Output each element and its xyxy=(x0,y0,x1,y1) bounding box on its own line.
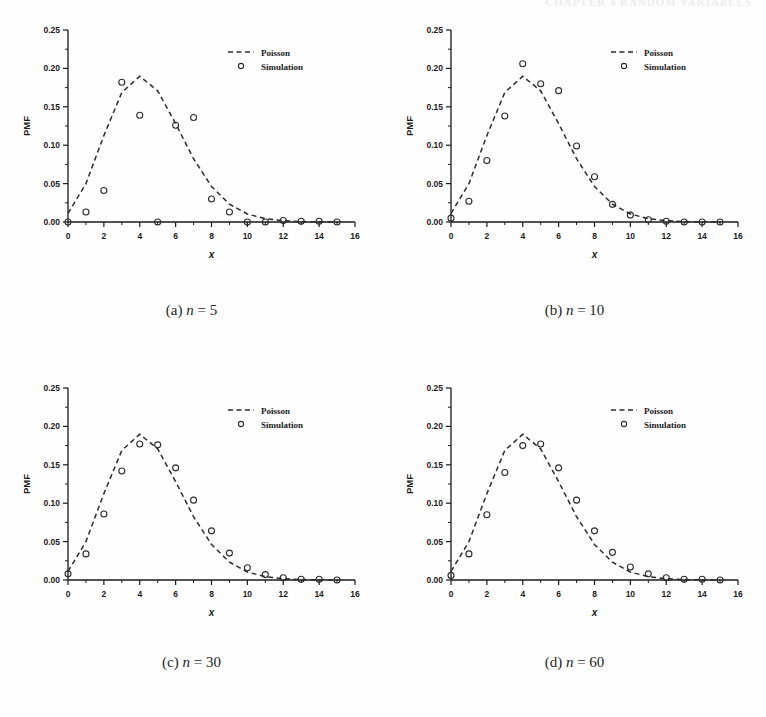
y-tick-label: 0.10 xyxy=(426,498,443,508)
legend-label-simulation: Simulation xyxy=(261,420,303,430)
y-tick-label: 0.15 xyxy=(43,102,60,112)
simulation-marker xyxy=(137,441,143,447)
panel-c: 02468101214160.000.050.100.150.200.25xPM… xyxy=(0,358,383,717)
x-tick-label: 4 xyxy=(520,589,525,599)
simulation-marker xyxy=(556,465,562,471)
x-tick-label: 14 xyxy=(697,589,707,599)
y-tick-label: 0.00 xyxy=(43,575,60,585)
panel-a: 02468101214160.000.050.100.150.200.25xPM… xyxy=(0,0,383,358)
x-tick-label: 14 xyxy=(314,589,324,599)
caption-c-var: n xyxy=(182,654,190,670)
x-tick-label: 16 xyxy=(733,589,743,599)
simulation-marker xyxy=(466,551,472,557)
y-axis-title: PMF xyxy=(21,474,32,494)
x-axis-title: x xyxy=(208,249,215,260)
caption-a-eq: = xyxy=(197,302,205,318)
x-axis-title: x xyxy=(591,607,598,618)
x-tick-label: 2 xyxy=(485,589,490,599)
simulation-marker xyxy=(209,528,215,534)
y-tick-label: 0.25 xyxy=(43,25,60,35)
simulation-marker xyxy=(592,528,598,534)
y-tick-label: 0.20 xyxy=(426,421,443,431)
simulation-marker xyxy=(155,442,161,448)
simulation-marker xyxy=(574,497,580,503)
simulation-marker xyxy=(191,115,197,121)
x-tick-label: 12 xyxy=(279,231,289,241)
legend-marker-sample xyxy=(238,421,243,426)
simulation-marker xyxy=(627,564,633,570)
x-tick-label: 2 xyxy=(102,231,107,241)
simulation-marker xyxy=(556,88,562,94)
y-tick-label: 0.15 xyxy=(426,102,443,112)
y-tick-label: 0.00 xyxy=(43,217,60,227)
x-tick-label: 16 xyxy=(350,231,360,241)
simulation-marker xyxy=(226,209,232,215)
y-tick-label: 0.05 xyxy=(426,537,443,547)
y-axis-title: PMF xyxy=(404,474,415,494)
x-tick-label: 12 xyxy=(662,589,672,599)
x-tick-label: 0 xyxy=(449,589,454,599)
simulation-marker xyxy=(520,443,526,449)
x-tick-label: 4 xyxy=(137,589,142,599)
poisson-line xyxy=(68,434,337,580)
caption-c-value: 30 xyxy=(206,654,221,670)
y-tick-label: 0.00 xyxy=(426,217,443,227)
simulation-marker xyxy=(101,511,107,517)
legend-label-simulation: Simulation xyxy=(644,62,686,72)
simulation-marker xyxy=(226,550,232,556)
x-tick-label: 10 xyxy=(243,231,253,241)
caption-b-tag: (b) xyxy=(545,302,563,318)
simulation-marker xyxy=(83,551,89,557)
poisson-line xyxy=(451,434,720,580)
simulation-marker xyxy=(244,565,250,571)
y-tick-label: 0.10 xyxy=(43,498,60,508)
simulation-marker xyxy=(645,571,651,577)
y-tick-label: 0.20 xyxy=(426,63,443,73)
legend-label-poisson: Poisson xyxy=(644,48,673,58)
simulation-marker xyxy=(137,112,143,118)
chart-c: 02468101214160.000.050.100.150.200.25xPM… xyxy=(0,358,383,653)
x-tick-label: 14 xyxy=(697,231,707,241)
panel-b: 02468101214160.000.050.100.150.200.25xPM… xyxy=(383,0,766,358)
caption-c-tag: (c) xyxy=(162,654,179,670)
chart-b: 02468101214160.000.050.100.150.200.25xPM… xyxy=(383,0,766,300)
caption-b-value: 10 xyxy=(589,302,604,318)
legend-label-poisson: Poisson xyxy=(261,406,290,416)
caption-b-var: n xyxy=(566,302,574,318)
caption-d-eq: = xyxy=(577,654,585,670)
caption-d-tag: (d) xyxy=(545,654,563,670)
x-tick-label: 10 xyxy=(243,589,253,599)
caption-b: (b) n = 10 xyxy=(383,302,766,319)
simulation-marker xyxy=(83,209,89,215)
caption-b-eq: = xyxy=(577,302,585,318)
x-tick-label: 8 xyxy=(209,231,214,241)
simulation-marker xyxy=(574,143,580,149)
caption-a-tag: (a) xyxy=(166,302,183,318)
x-tick-label: 12 xyxy=(279,589,289,599)
y-tick-label: 0.20 xyxy=(43,63,60,73)
caption-d-value: 60 xyxy=(589,654,604,670)
x-tick-label: 8 xyxy=(209,589,214,599)
y-tick-label: 0.10 xyxy=(426,140,443,150)
chart-a: 02468101214160.000.050.100.150.200.25xPM… xyxy=(0,0,383,300)
y-tick-label: 0.15 xyxy=(426,460,443,470)
caption-d: (d) n = 60 xyxy=(383,654,766,671)
simulation-marker xyxy=(119,468,125,474)
y-tick-label: 0.05 xyxy=(43,537,60,547)
y-tick-label: 0.20 xyxy=(43,421,60,431)
y-tick-label: 0.00 xyxy=(426,575,443,585)
poisson-line xyxy=(68,76,337,222)
simulation-marker xyxy=(592,174,598,180)
poisson-line xyxy=(451,76,720,222)
caption-c: (c) n = 30 xyxy=(0,654,383,671)
y-tick-label: 0.25 xyxy=(426,25,443,35)
simulation-marker xyxy=(119,79,125,85)
caption-c-eq: = xyxy=(194,654,202,670)
x-tick-label: 6 xyxy=(173,589,178,599)
y-tick-label: 0.05 xyxy=(43,179,60,189)
caption-a: (a) n = 5 xyxy=(0,302,383,319)
simulation-marker xyxy=(262,572,268,578)
legend-marker-sample xyxy=(621,421,626,426)
legend-label-poisson: Poisson xyxy=(261,48,290,58)
x-tick-label: 10 xyxy=(626,231,636,241)
